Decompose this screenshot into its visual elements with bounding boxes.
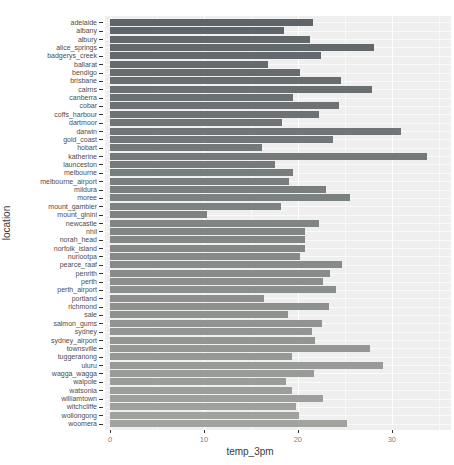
bar-coffs_harbour [110,111,319,118]
bar-gold_coast [110,136,333,143]
category-label-badgerys_creek: badgerys_creek [0,52,97,59]
bar-nhil [110,228,305,235]
category-tick [99,131,103,132]
category-label-townsville: townsville [0,345,97,352]
category-label-brisbane: brisbane [0,77,97,84]
category-tick [99,156,103,157]
category-tick [99,273,103,274]
category-label-melbourne: melbourne [0,169,97,176]
bar-walpole [110,378,286,385]
category-label-melbourne_airport: melbourne_airport [0,178,97,185]
category-tick [99,399,103,400]
category-label-williamtown: williamtown [0,395,97,402]
x-tick-mark [204,430,205,433]
bar-townsville [110,345,370,352]
category-tick [99,248,103,249]
category-tick [99,64,103,65]
x-tick-mark [298,430,299,433]
bar-mount_gambier [110,203,281,210]
category-tick [99,47,103,48]
category-label-mildura: mildura [0,186,97,193]
category-label-penrith: penrith [0,270,97,277]
bar-canberra [110,94,293,101]
x-axis-title: temp_3pm [190,446,310,457]
category-tick [99,181,103,182]
bar-wagga_wagga [110,370,314,377]
bar-albany [110,27,284,34]
category-tick [99,123,103,124]
bar-darwin [110,128,401,135]
category-label-uluru: uluru [0,362,97,369]
category-tick [99,106,103,107]
category-tick [99,332,103,333]
bar-wollongong [110,412,299,419]
bar-portland [110,295,264,302]
bar-mildura [110,186,326,193]
x-tick-label: 0 [98,435,122,444]
category-label-gold_coast: gold_coast [0,136,97,143]
bar-cobar [110,102,339,109]
category-tick [99,265,103,266]
bar-katherine [110,153,427,160]
bar-melbourne [110,169,293,176]
bar-woomera [110,420,347,427]
category-label-pearce_raaf: pearce_raaf [0,261,97,268]
category-label-woomera: woomera [0,420,97,427]
category-tick [99,31,103,32]
category-label-launceston: launceston [0,161,97,168]
category-tick [99,98,103,99]
category-tick [99,290,103,291]
category-tick [99,206,103,207]
bar-hobart [110,144,262,151]
category-tick [99,56,103,57]
bar-cairns [110,86,372,93]
category-tick [99,407,103,408]
category-tick [99,198,103,199]
bar-sydney_airport [110,337,315,344]
category-label-tuggeranong: tuggeranong [0,353,97,360]
bar-badgerys_creek [110,52,321,59]
category-tick [99,139,103,140]
category-tick [99,231,103,232]
category-tick [99,148,103,149]
bar-moree [110,194,350,201]
x-tick-label: 30 [380,435,404,444]
bar-sydney [110,328,312,335]
category-tick [99,365,103,366]
category-tick [99,256,103,257]
bar-perth_airport [110,286,336,293]
category-label-watsonia: watsonia [0,387,97,394]
category-tick [99,114,103,115]
category-label-witchcliffe: witchcliffe [0,403,97,410]
category-label-salmon_gums: salmon_gums [0,320,97,327]
category-tick [99,323,103,324]
category-label-albury: albury [0,36,97,43]
category-tick [99,39,103,40]
x-tick-label: 20 [286,435,310,444]
category-label-canberra: canberra [0,94,97,101]
category-label-wagga_wagga: wagga_wagga [0,370,97,377]
category-tick [99,282,103,283]
bar-albury [110,36,310,43]
category-label-norah_head: norah_head [0,236,97,243]
category-label-dartmoor: dartmoor [0,119,97,126]
bar-witchcliffe [110,403,296,410]
bar-newcastle [110,220,319,227]
category-label-katherine: katherine [0,153,97,160]
category-tick [99,164,103,165]
category-tick [99,190,103,191]
category-label-walpole: walpole [0,378,97,385]
bar-penrith [110,270,330,277]
category-tick [99,81,103,82]
category-tick [99,373,103,374]
category-tick [99,357,103,358]
category-tick [99,298,103,299]
category-tick [99,22,103,23]
bar-perth [110,278,323,285]
category-label-ballarat: ballarat [0,61,97,68]
bar-uluru [110,362,383,369]
category-tick [99,424,103,425]
category-label-sydney_airport: sydney_airport [0,337,97,344]
category-tick [99,307,103,308]
bar-nuriootpa [110,253,300,260]
